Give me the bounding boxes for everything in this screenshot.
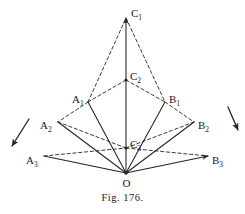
vertex-label-c2: C2 [130,70,141,85]
vertex-label-sub-b1: 1 [176,99,180,108]
ray-O-A2 [58,122,126,173]
vertex-label-sub-a1: 1 [80,99,84,108]
edge-A2-C3 [58,122,126,148]
vertex-dot-c2 [125,79,128,82]
vertex-dot-o [124,171,128,175]
vertex-label-b2: B2 [198,119,209,134]
geometry-figure: C1C2C3A1A2A3B1B2B3O Fig. 176. [0,0,245,214]
figure-caption: Fig. 176. [0,192,245,203]
vertex-label-c1: C1 [131,7,142,22]
vertex-label-o: O [123,177,131,189]
ray-O-A1 [88,102,126,173]
edge-A1-C1 [88,18,126,102]
vertex-label-a1: A1 [72,93,84,108]
edge-C2-B1 [126,80,165,102]
vertex-label-a2: A2 [40,119,52,134]
motion-arrow-left [12,119,29,146]
vertex-label-a3: A3 [26,154,38,169]
vertex-label-b3: B3 [212,154,223,169]
solid-ray-layer [44,18,208,173]
ray-O-A3 [44,156,126,173]
vertex-label-sub-a2: 2 [48,125,52,134]
vertex-label-sub-a3: 3 [34,160,38,169]
vertex-label-sub-b2: 2 [205,125,209,134]
vertex-label-layer: C1C2C3A1A2A3B1B2B3O [26,7,223,189]
motion-arrow-right [228,107,238,130]
figure-canvas: C1C2C3A1A2A3B1B2B3O [0,0,245,214]
vertex-label-c3: C3 [130,138,141,153]
vertex-label-sub-c2: 2 [137,76,141,85]
vertex-label-sub-c3: 3 [137,144,141,153]
ray-O-B3 [126,156,208,173]
vertex-dot-c3 [125,147,128,150]
edge-A1-C2 [88,80,126,102]
edge-C1-B1 [126,18,165,102]
vertex-label-sub-c1: 1 [138,13,142,22]
vertex-label-sub-b3: 3 [219,160,223,169]
